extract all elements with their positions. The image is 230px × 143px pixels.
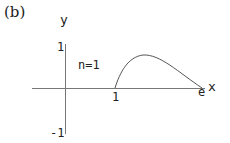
curve-n1: [115, 55, 202, 88]
plot-area: [0, 0, 230, 143]
